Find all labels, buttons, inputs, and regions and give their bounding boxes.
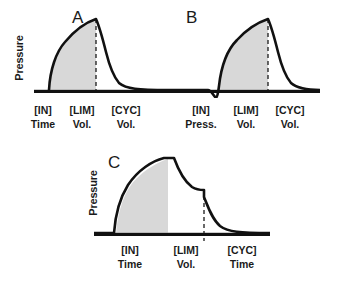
panel-b: B [IN] [LIM] [CYC] Press. Vol. Vol. — [168, 0, 337, 145]
panel-a-y-axis-label: Pressure — [13, 30, 25, 86]
panel-b-var-in: Press. — [178, 117, 224, 131]
panel-c-phase-labels: [IN] [LIM] [CYC] Time Vol. Time — [102, 243, 270, 271]
panel-a-tag-in: [IN] — [26, 103, 60, 117]
panel-c-plot — [94, 149, 270, 241]
panel-b-var-lim: Vol. — [224, 117, 268, 131]
panel-a-var-lim: Vol. — [60, 117, 104, 131]
panel-c-tag-lim: [LIM] — [158, 243, 214, 257]
panel-a-var-in: Time — [26, 117, 60, 131]
panel-b-tag-cyc: [CYC] — [268, 103, 312, 117]
panel-a-phase-labels: [IN] [LIM] [CYC] Time Vol. Vol. — [26, 103, 148, 131]
ventilator-waveform-figure: Pressure A [IN] [LIM] [CYC] — [0, 0, 337, 286]
panel-c: Pressure C [IN] [LIM] [CYC] Time Vol. Ti… — [78, 145, 288, 286]
panel-b-tag-in: [IN] — [178, 103, 224, 117]
panel-c-var-in: Time — [102, 257, 158, 271]
panel-a: Pressure A [IN] [LIM] [CYC] — [0, 0, 168, 145]
panel-b-var-cyc: Vol. — [268, 117, 312, 131]
panel-a-plot — [34, 6, 168, 98]
panel-c-tag-cyc: [CYC] — [214, 243, 270, 257]
panel-a-tag-lim: [LIM] — [60, 103, 104, 117]
panel-c-var-cyc: Time — [214, 257, 270, 271]
panel-a-var-cyc: Vol. — [104, 117, 148, 131]
panel-b-phase-labels: [IN] [LIM] [CYC] Press. Vol. Vol. — [178, 103, 312, 131]
panel-a-tag-cyc: [CYC] — [104, 103, 148, 117]
panel-c-var-lim: Vol. — [158, 257, 214, 271]
panel-b-plot — [168, 6, 320, 98]
panel-c-tag-in: [IN] — [102, 243, 158, 257]
panel-b-tag-lim: [LIM] — [224, 103, 268, 117]
